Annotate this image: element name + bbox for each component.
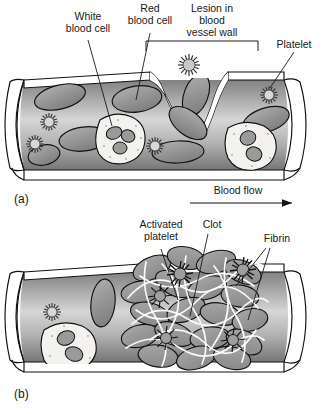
platelet-icon [146, 137, 164, 155]
platelet-icon [178, 54, 200, 76]
label-fibrin: Fibrin [264, 232, 290, 244]
panel-b: Activatedplatelet Clot Fibrin (b) [5, 218, 306, 401]
activated-platelet-icon [221, 328, 245, 352]
white-blood-cell-left [96, 114, 145, 164]
white-blood-cell-right [225, 122, 276, 170]
label-clot: Clot [203, 218, 222, 230]
activated-platelet-icon [154, 326, 178, 350]
activated-platelet-icon [230, 257, 256, 283]
blood-flow-indicator: Blood flow [190, 184, 292, 207]
blood-flow-arrow-head [282, 199, 292, 207]
label-lesion-in-blood-vessel-wall: Lesion inbloodvessel wall [187, 2, 238, 38]
platelet-icon [43, 303, 61, 321]
figure-blood-clot-formation: Whiteblood cell Redblood cell Lesion inb… [0, 0, 328, 414]
diagram-canvas: Whiteblood cell Redblood cell Lesion inb… [0, 0, 328, 414]
labels-b: Activatedplatelet Clot Fibrin [139, 218, 290, 244]
labels-a: Whiteblood cell Redblood cell Lesion inb… [66, 2, 312, 50]
panel-label-a: (a) [14, 192, 29, 206]
label-blood-flow: Blood flow [214, 184, 263, 196]
label-white-blood-cell: Whiteblood cell [66, 10, 110, 34]
platelet-icon [40, 113, 58, 131]
activated-platelet-icon [148, 284, 172, 308]
platelet-icon [26, 135, 44, 153]
activated-platelet-icon [167, 261, 193, 287]
label-activated-platelet: Activatedplatelet [139, 218, 182, 242]
vessel-wall-bottom-a [24, 170, 284, 180]
panel-label-b: (b) [14, 387, 29, 401]
panel-a: Whiteblood cell Redblood cell Lesion inb… [5, 2, 312, 207]
lesion-bracket [146, 41, 258, 51]
label-platelet: Platelet [276, 38, 311, 50]
platelet-icon [260, 86, 278, 104]
label-red-blood-cell: Redblood cell [128, 2, 172, 26]
